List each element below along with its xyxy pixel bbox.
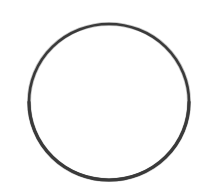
background-plate xyxy=(0,0,210,194)
circle-figure xyxy=(0,0,210,194)
figure-canvas xyxy=(0,0,210,194)
